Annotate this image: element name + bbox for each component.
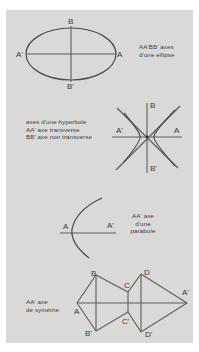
hyperbola-caption-line-3: BB' axe non transverse bbox=[26, 133, 92, 141]
symmetry-label-b-prime: B' bbox=[85, 329, 92, 338]
symmetry-label-c-prime: C' bbox=[122, 317, 130, 326]
symmetry-caption-line-2: de symétrie bbox=[26, 306, 59, 314]
hyperbola-caption-line-2: AA' axe transverse bbox=[26, 126, 92, 134]
ellipse-label-a: A bbox=[117, 50, 123, 59]
symmetry-label-a: A bbox=[74, 307, 80, 316]
symmetry-label-b: B bbox=[91, 269, 96, 278]
hyperbola-center-point bbox=[146, 136, 149, 139]
ellipse-label-a-prime: A' bbox=[16, 50, 23, 59]
hyperbola-label-b-prime: B' bbox=[150, 164, 157, 173]
symmetry-label-d-prime: D' bbox=[145, 330, 153, 339]
parabola-curve bbox=[72, 198, 102, 258]
parabola-caption: AA' axe d'une parabole bbox=[128, 212, 158, 235]
parabola-caption-line-3: parabole bbox=[128, 227, 158, 235]
parabola-figure: A A' bbox=[60, 198, 116, 258]
ellipse-label-b: B bbox=[68, 17, 73, 26]
ellipse-caption-line-1: AA'BB' axes bbox=[139, 43, 175, 51]
hyperbola-caption-line-1: axes d'une hyperbole bbox=[26, 118, 92, 126]
hyperbola-figure: B B' A' A bbox=[112, 101, 182, 173]
parabola-caption-line-2: d'une bbox=[128, 220, 158, 228]
ellipse-caption: AA'BB' axes d'une ellipse bbox=[139, 43, 175, 58]
symmetry-label-d: D bbox=[144, 268, 150, 277]
symmetry-label-c: C bbox=[124, 281, 130, 290]
hyperbola-label-b: B bbox=[150, 101, 155, 110]
hyperbola-caption: axes d'une hyperbole AA' axe transverse … bbox=[26, 118, 92, 141]
ellipse-figure: B B' A' A bbox=[16, 17, 123, 91]
symmetry-label-a-prime: A' bbox=[182, 288, 189, 297]
parabola-label-a-prime: A' bbox=[107, 221, 114, 230]
hyperbola-right-branch bbox=[154, 110, 175, 166]
symmetry-figure: A A' B B' C C' D D' bbox=[74, 268, 189, 339]
hyperbola-label-a: A bbox=[174, 126, 180, 135]
ellipse-label-b-prime: B' bbox=[67, 82, 74, 91]
ellipse-caption-line-2: d'une ellipse bbox=[139, 51, 175, 59]
symmetry-caption: AA' axe de symétrie bbox=[26, 298, 59, 313]
hyperbola-label-a-prime: A' bbox=[116, 126, 123, 135]
parabola-caption-line-1: AA' axe bbox=[128, 212, 158, 220]
parabola-label-a: A bbox=[63, 222, 69, 231]
symmetry-caption-line-1: AA' axe bbox=[26, 298, 59, 306]
